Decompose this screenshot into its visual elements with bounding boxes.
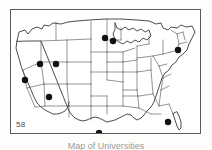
national-outline xyxy=(17,19,195,122)
figure-number: 58 xyxy=(16,120,26,129)
map-marker[interactable] xyxy=(102,35,108,41)
map-frame: 58 xyxy=(10,9,201,134)
map-marker[interactable] xyxy=(37,61,43,67)
map-marker[interactable] xyxy=(53,61,59,67)
figure-caption: Map of Universities xyxy=(0,140,212,150)
us-map-graphic xyxy=(11,10,200,133)
map-marker[interactable] xyxy=(175,47,181,53)
map-marker[interactable] xyxy=(22,77,28,83)
figure-container: 58 Map of Universities xyxy=(0,0,212,150)
state-boundaries xyxy=(23,19,187,120)
map-marker[interactable] xyxy=(110,38,116,44)
map-marker[interactable] xyxy=(46,94,52,100)
map-marker[interactable] xyxy=(96,130,102,133)
map-marker[interactable] xyxy=(165,119,171,125)
